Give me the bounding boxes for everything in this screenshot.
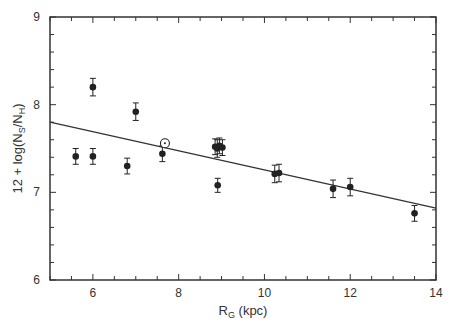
data-point bbox=[330, 180, 337, 198]
data-point bbox=[276, 164, 283, 182]
sun-dot bbox=[164, 142, 166, 144]
x-tick-label: 14 bbox=[429, 286, 443, 300]
data-point bbox=[124, 158, 131, 174]
point-marker bbox=[411, 210, 418, 217]
sun-symbol bbox=[160, 139, 169, 148]
y-tick-label: 8 bbox=[33, 98, 40, 112]
point-marker bbox=[90, 84, 97, 91]
fit-line bbox=[50, 122, 436, 208]
point-marker bbox=[330, 186, 337, 193]
data-point bbox=[90, 149, 97, 165]
y-tick-label: 7 bbox=[33, 185, 40, 199]
y-tick-label: 6 bbox=[33, 273, 40, 287]
x-tick-label: 6 bbox=[90, 286, 97, 300]
y-axis-label: 12 + log(NS/NH) bbox=[10, 103, 27, 193]
point-marker bbox=[219, 144, 226, 151]
axis-ticks bbox=[50, 17, 436, 280]
x-tick-label: 12 bbox=[344, 286, 358, 300]
point-marker bbox=[276, 170, 283, 177]
point-marker bbox=[124, 163, 131, 170]
data-point bbox=[411, 205, 418, 221]
point-marker bbox=[132, 108, 139, 115]
data-point bbox=[214, 178, 221, 192]
point-marker bbox=[159, 150, 166, 157]
plot-frame bbox=[50, 17, 436, 280]
x-tick-label: 8 bbox=[175, 286, 182, 300]
point-marker bbox=[347, 184, 354, 191]
x-tick-label: 10 bbox=[258, 286, 272, 300]
data-point bbox=[347, 178, 354, 196]
y-tick-label: 9 bbox=[33, 10, 40, 24]
chart: 681012146789 RG (kpc) 12 + log(NS/NH) bbox=[0, 0, 453, 331]
data-point bbox=[90, 78, 97, 96]
point-marker bbox=[90, 153, 97, 160]
data-point bbox=[219, 140, 226, 156]
point-marker bbox=[72, 153, 79, 160]
data-points bbox=[72, 78, 417, 221]
point-marker bbox=[214, 182, 221, 189]
x-axis-label: RG (kpc) bbox=[219, 303, 268, 320]
data-point bbox=[132, 103, 139, 121]
data-point bbox=[72, 149, 79, 165]
